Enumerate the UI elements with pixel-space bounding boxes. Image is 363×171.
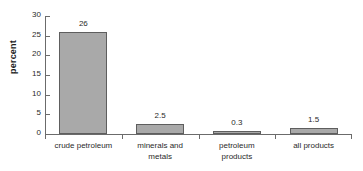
y-tick-label: 5 xyxy=(19,108,41,117)
y-tick-label: 20 xyxy=(19,49,41,58)
x-tick-mark xyxy=(122,134,123,139)
y-tick: 30 xyxy=(45,16,50,17)
bar xyxy=(290,128,338,134)
y-tick-mark xyxy=(46,16,50,17)
x-tick-mark xyxy=(45,134,46,139)
bar xyxy=(59,32,107,134)
y-tick-label: 30 xyxy=(19,10,41,19)
x-category-label: minerals and metals xyxy=(120,140,200,162)
x-category-label: all products xyxy=(274,140,354,151)
bar-value-label: 0.3 xyxy=(217,118,257,127)
bar-value-label: 2.5 xyxy=(140,111,180,120)
y-tick: 10 xyxy=(45,95,50,96)
y-tick: 15 xyxy=(45,75,50,76)
bar-value-label: 1.5 xyxy=(294,115,334,124)
bar xyxy=(136,124,184,134)
y-tick: 5 xyxy=(45,114,50,115)
y-tick: 25 xyxy=(45,36,50,37)
x-tick-mark xyxy=(275,134,276,139)
y-tick: 20 xyxy=(45,55,50,56)
x-category-label: petroleum products xyxy=(197,140,277,162)
x-tick-mark xyxy=(199,134,200,139)
y-tick-mark xyxy=(46,55,50,56)
y-tick-mark xyxy=(46,114,50,115)
bar-chart: percent 051015202530 262.50.31.5 crude p… xyxy=(0,0,363,171)
plot-area: 051015202530 262.50.31.5 xyxy=(45,16,352,134)
y-tick-mark xyxy=(46,36,50,37)
y-axis-title: percent xyxy=(8,27,18,87)
x-category-label: crude petroleum xyxy=(43,140,123,151)
y-tick-label: 15 xyxy=(19,69,41,78)
y-tick-label: 0 xyxy=(19,128,41,137)
y-tick-mark xyxy=(46,75,50,76)
bar-value-label: 26 xyxy=(63,19,103,28)
y-tick-label: 25 xyxy=(19,30,41,39)
y-tick-label: 10 xyxy=(19,89,41,98)
y-tick-mark xyxy=(46,134,50,135)
y-tick-mark xyxy=(46,95,50,96)
x-tick-mark xyxy=(351,134,352,139)
bar xyxy=(213,131,261,134)
